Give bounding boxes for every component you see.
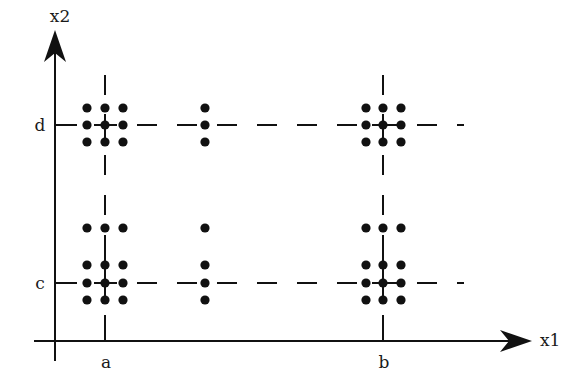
tick-label-a: a — [101, 352, 111, 372]
design-point — [378, 295, 387, 304]
cluster-a-d — [82, 103, 127, 146]
design-point — [100, 120, 109, 129]
y-axis-label: x2 — [50, 6, 70, 26]
x-axis-label: x1 — [540, 330, 560, 350]
design-point — [82, 295, 91, 304]
design-point — [361, 295, 370, 304]
design-point — [378, 120, 387, 129]
design-point — [100, 137, 109, 146]
cluster-crosses — [94, 114, 394, 300]
design-point — [361, 260, 370, 269]
cluster-b-d — [361, 103, 405, 146]
design-point — [200, 223, 209, 232]
design-point — [396, 278, 405, 287]
design-point — [100, 260, 109, 269]
design-point — [100, 103, 109, 112]
cluster-mid-c — [200, 223, 209, 304]
design-point — [82, 260, 91, 269]
design-point — [361, 278, 370, 287]
design-point — [396, 103, 405, 112]
design-grid-diagram: x2 x1 d c a b — [0, 0, 585, 385]
diagram-svg: x2 x1 d c a b — [0, 0, 585, 385]
tick-label-d: d — [35, 115, 46, 135]
design-point — [361, 137, 370, 146]
design-point — [82, 120, 91, 129]
design-point — [200, 137, 209, 146]
design-point — [118, 103, 127, 112]
tick-label-c: c — [35, 273, 45, 293]
design-point — [118, 260, 127, 269]
design-point — [82, 137, 91, 146]
design-point — [118, 223, 127, 232]
design-point — [118, 295, 127, 304]
design-point — [200, 120, 209, 129]
design-point — [396, 223, 405, 232]
design-point — [378, 103, 387, 112]
design-point — [378, 137, 387, 146]
design-point — [100, 278, 109, 287]
design-point — [118, 120, 127, 129]
design-point — [200, 260, 209, 269]
design-points — [82, 103, 405, 304]
design-point — [82, 223, 91, 232]
design-point — [118, 278, 127, 287]
design-point — [378, 223, 387, 232]
tick-label-b: b — [379, 352, 390, 372]
design-point — [82, 278, 91, 287]
design-point — [396, 137, 405, 146]
design-point — [378, 260, 387, 269]
design-point — [361, 103, 370, 112]
design-point — [100, 295, 109, 304]
design-point — [200, 103, 209, 112]
design-point — [100, 223, 109, 232]
design-point — [200, 278, 209, 287]
design-point — [361, 120, 370, 129]
design-point — [396, 295, 405, 304]
design-point — [396, 260, 405, 269]
design-point — [82, 103, 91, 112]
design-point — [118, 137, 127, 146]
cluster-mid-d — [200, 103, 209, 146]
design-point — [396, 120, 405, 129]
design-point — [378, 278, 387, 287]
design-point — [200, 295, 209, 304]
design-point — [361, 223, 370, 232]
axes — [34, 42, 520, 361]
